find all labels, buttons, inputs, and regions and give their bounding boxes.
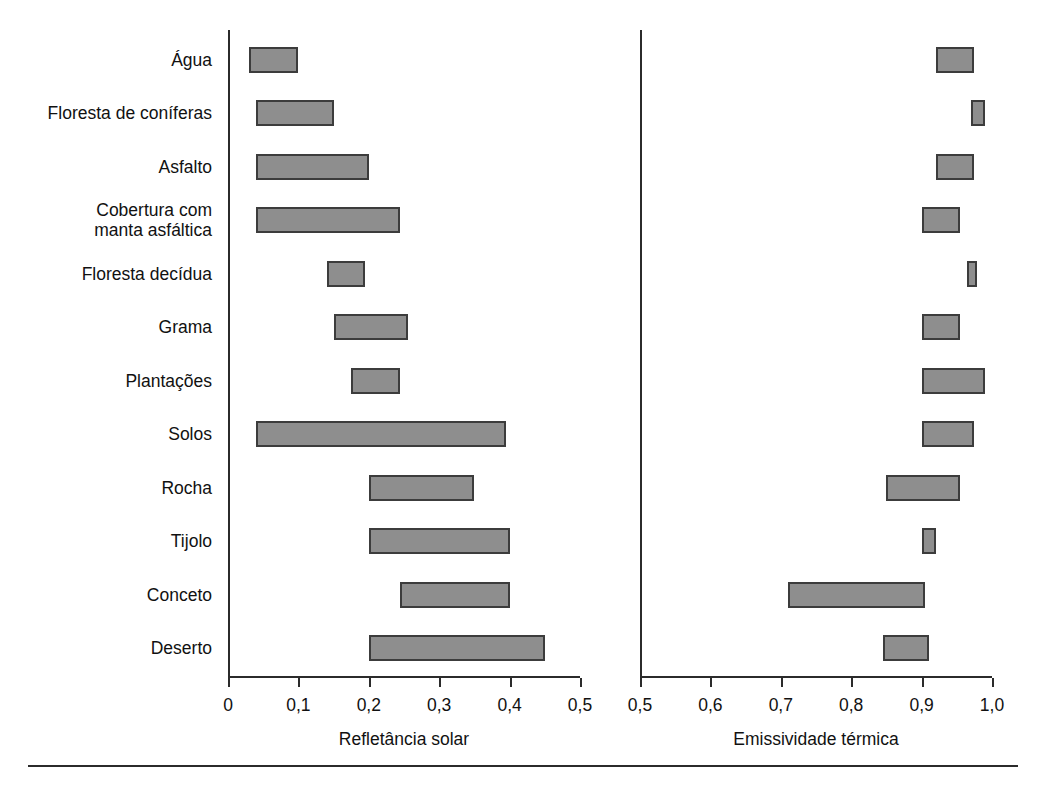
footer-divider-rule xyxy=(28,765,1018,767)
category-label: Plantações xyxy=(125,371,212,391)
x-axis-tick xyxy=(298,678,300,687)
category-label: Rocha xyxy=(161,478,212,498)
x-axis-tick-label: 0,8 xyxy=(839,695,863,716)
x-axis-tick xyxy=(439,678,441,687)
x-axis-tick xyxy=(580,678,582,687)
x-axis-tick-label: 0,3 xyxy=(427,695,451,716)
range-bar xyxy=(256,421,506,447)
category-label: Floresta decídua xyxy=(82,264,212,284)
x-axis-tick-label: 0 xyxy=(223,695,233,716)
range-bar xyxy=(936,154,975,180)
range-bar xyxy=(922,421,975,447)
range-bar xyxy=(369,635,545,661)
chart-panel-reflectance: 00,10,20,30,40,5Refletância solar xyxy=(228,30,580,678)
range-bar xyxy=(936,47,975,73)
x-axis-tick-label: 0,4 xyxy=(497,695,521,716)
x-axis-tick-label: 0,2 xyxy=(357,695,381,716)
category-label: Deserto xyxy=(151,638,212,658)
figure-container: ÁguaFloresta de coníferasAsfaltoCobertur… xyxy=(0,0,1046,789)
category-label-column: ÁguaFloresta de coníferasAsfaltoCobertur… xyxy=(0,0,220,689)
x-axis-tick xyxy=(510,678,512,687)
x-axis-tick-label: 0,9 xyxy=(909,695,933,716)
x-axis-line-left xyxy=(228,676,580,678)
x-axis-tick xyxy=(922,678,924,687)
x-axis-tick-label: 0,5 xyxy=(568,695,592,716)
range-bar xyxy=(400,582,509,608)
x-axis-tick xyxy=(851,678,853,687)
x-axis-tick-label: 0,5 xyxy=(628,695,652,716)
x-axis-tick-label: 0,6 xyxy=(698,695,722,716)
range-bar xyxy=(886,475,960,501)
range-bar xyxy=(334,314,408,340)
x-axis-tick xyxy=(781,678,783,687)
range-bar xyxy=(249,47,298,73)
range-bar xyxy=(369,475,475,501)
x-axis-tick xyxy=(710,678,712,687)
x-axis-tick xyxy=(228,678,230,687)
category-label: Solos xyxy=(168,424,212,444)
range-bar xyxy=(256,100,333,126)
category-label: Água xyxy=(171,50,212,70)
x-axis-tick xyxy=(992,678,994,687)
range-bar xyxy=(327,261,366,287)
range-bar xyxy=(788,582,925,608)
range-bar xyxy=(351,368,400,394)
y-axis-line-right xyxy=(640,30,642,678)
range-bar xyxy=(256,154,369,180)
category-label: Floresta de coníferas xyxy=(48,103,212,123)
x-axis-tick xyxy=(369,678,371,687)
x-axis-tick-label: 1,0 xyxy=(980,695,1004,716)
x-axis-title: Emissividade térmica xyxy=(733,729,898,750)
category-label: Cobertura com manta asfáltica xyxy=(94,200,212,240)
x-axis-tick-label: 0,7 xyxy=(769,695,793,716)
range-bar xyxy=(922,528,936,554)
range-bar xyxy=(883,635,929,661)
category-label: Tijolo xyxy=(171,531,212,551)
range-bar xyxy=(971,100,985,126)
range-bar xyxy=(369,528,510,554)
range-bar xyxy=(922,207,961,233)
range-bar xyxy=(967,261,976,287)
range-bar xyxy=(256,207,400,233)
category-label: Grama xyxy=(159,317,212,337)
x-axis-line-right xyxy=(640,676,992,678)
category-label: Asfalto xyxy=(159,157,213,177)
range-bar xyxy=(922,368,985,394)
x-axis-title: Refletância solar xyxy=(339,729,469,750)
range-bar xyxy=(922,314,961,340)
x-axis-tick-label: 0,1 xyxy=(286,695,310,716)
category-label: Conceto xyxy=(147,585,212,605)
x-axis-tick xyxy=(640,678,642,687)
y-axis-line-left xyxy=(228,30,230,678)
chart-panel-emissivity: 0,50,60,70,80,91,0Emissividade térmica xyxy=(640,30,992,678)
